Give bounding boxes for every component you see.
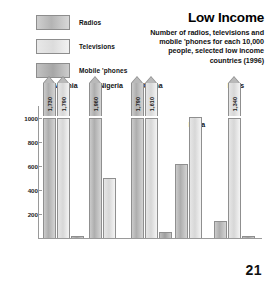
bars: 1,340 <box>214 106 258 238</box>
bar-arrow-cap: 1,960 <box>89 83 102 116</box>
bar-arrow-cap: 1,790 <box>57 83 70 116</box>
bar-radios <box>175 164 188 238</box>
bar-group: China1,7901,610 <box>131 86 175 238</box>
bar-arrow-cap: 1,730 <box>43 83 56 116</box>
bar-value-label: 1,790 <box>61 97 67 112</box>
bar-group: Albania1,7301,790 <box>43 86 87 238</box>
bar-cap-body: 1,340 <box>228 92 241 116</box>
legend-item-radios: Radios <box>36 13 127 32</box>
bars: 1,960 <box>89 106 133 238</box>
bar-radios: 1,790 <box>131 118 144 238</box>
bar-mobile-phones <box>71 236 84 238</box>
title-block: Low Income Number of radios, televisions… <box>138 10 264 65</box>
bars <box>175 106 219 238</box>
y-axis-tick: 400 <box>0 190 38 197</box>
y-axis-tick: 800 <box>0 142 38 149</box>
chart-subtitle: Number of radios, televisions and mobile… <box>138 28 264 65</box>
arrow-up-icon <box>131 83 144 92</box>
arrow-up-icon <box>145 83 158 92</box>
legend-label-radios: Radios <box>79 19 101 26</box>
y-axis-tick: 200 <box>0 214 38 221</box>
bar-mobile-phones <box>242 236 255 238</box>
bar-televisions: 1,610 <box>145 118 158 238</box>
bar-radios: 1,730 <box>43 118 56 238</box>
page-number: 21 <box>245 262 262 278</box>
bar-televisions: 1,340 <box>228 118 241 238</box>
bar-radios <box>214 221 227 238</box>
arrow-up-icon <box>57 83 70 92</box>
bar-arrow-cap: 1,790 <box>131 83 144 116</box>
chart-title: Low Income <box>138 10 264 25</box>
y-axis-tick: 1000 <box>0 118 38 125</box>
bar-arrow-cap: 1,340 <box>228 83 241 116</box>
bar-value-label: 1,730 <box>47 97 53 112</box>
arrow-up-icon <box>43 83 56 92</box>
arrow-up-icon <box>89 83 102 92</box>
bar-cap-body: 1,960 <box>89 92 102 116</box>
bar-cap-body: 1,730 <box>43 92 56 116</box>
bar-arrow-cap: 1,610 <box>145 83 158 116</box>
bars: 1,7901,610 <box>131 106 175 238</box>
bars: 1,7301,790 <box>43 106 87 238</box>
bar-group: India <box>175 86 219 238</box>
bar-radios: 1,960 <box>89 118 102 238</box>
y-axis-line <box>38 106 39 238</box>
bar-value-label: 1,960 <box>93 97 99 112</box>
bar-televisions <box>103 178 116 238</box>
bar-value-label: 1,340 <box>232 97 238 112</box>
bar-value-label: 1,610 <box>149 97 155 112</box>
bar-mobile-phones <box>159 232 172 238</box>
legend-label-televisions: Televisions <box>79 43 115 50</box>
country-label: Nigeria <box>99 82 123 89</box>
chart-page: Radios Televisions Mobile 'phones Low In… <box>0 0 271 283</box>
bar-cap-body: 1,610 <box>145 92 158 116</box>
bar-cap-body: 1,790 <box>131 92 144 116</box>
x-axis-line <box>38 238 262 239</box>
bar-televisions: 1,790 <box>57 118 70 238</box>
televisions-swatch-icon <box>36 39 70 54</box>
bar-televisions <box>189 117 202 238</box>
arrow-up-icon <box>228 83 241 92</box>
y-axis-tick: 600 <box>0 166 38 173</box>
bar-value-label: 1,790 <box>135 97 141 112</box>
bar-group: Nigeria1,960 <box>89 86 133 238</box>
radios-swatch-icon <box>36 15 70 30</box>
bar-cap-body: 1,790 <box>57 92 70 116</box>
plot-area: 1000800600400200 Albania1,7301,790Nigeri… <box>0 72 271 252</box>
legend-item-televisions: Televisions <box>36 37 127 56</box>
bar-group: Laos1,340 <box>214 86 258 238</box>
